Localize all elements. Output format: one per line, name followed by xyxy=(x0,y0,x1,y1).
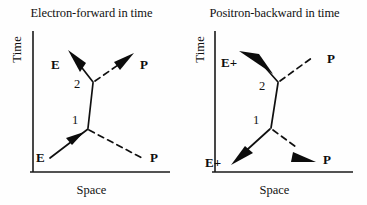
particle-label-outgoing-photon-left: P xyxy=(140,57,148,72)
outgoing-photon-arrowhead-left xyxy=(114,53,134,70)
outgoing-photon-line-lower-right xyxy=(273,130,296,147)
vertex-label-1-left: 1 xyxy=(72,113,78,127)
outgoing-photon-arrowhead-lower-right xyxy=(291,152,316,162)
particle-label-outgoing-electron-left: E xyxy=(51,57,60,72)
vertex-label-1-right: 1 xyxy=(253,113,259,127)
particle-label-incoming-electron-left: E xyxy=(36,150,45,165)
panel-positron-backward: Positron-backward in time Time Space 2 1 xyxy=(183,0,366,205)
internal-positron-line-right xyxy=(271,83,278,128)
particle-label-outgoing-positron-lower-right: E+ xyxy=(205,155,221,170)
particle-label-outgoing-photon-lower-right: P xyxy=(323,152,331,167)
vertex-label-2-left: 2 xyxy=(74,77,80,91)
photon-line-upper-right xyxy=(280,57,313,81)
panel-electron-forward: Electron-forward in time Time Space 2 1 xyxy=(0,0,183,205)
diagram-canvas-left: 2 1 E P E P xyxy=(0,0,183,205)
outgoing-positron-arrowhead-lower-right xyxy=(231,146,253,165)
feynman-diagram-figure: Electron-forward in time Time Space 2 1 xyxy=(0,0,367,205)
incoming-photon-line-left xyxy=(89,130,142,158)
particle-label-incoming-photon-left: P xyxy=(150,150,158,165)
particle-label-photon-upper-right: P xyxy=(327,51,335,66)
diagram-canvas-right: 2 1 E+ P E+ P xyxy=(183,0,366,205)
vertex-label-2-right: 2 xyxy=(259,79,265,93)
internal-electron-line-left xyxy=(88,83,93,128)
particle-label-positron-upper-right: E+ xyxy=(221,55,237,70)
